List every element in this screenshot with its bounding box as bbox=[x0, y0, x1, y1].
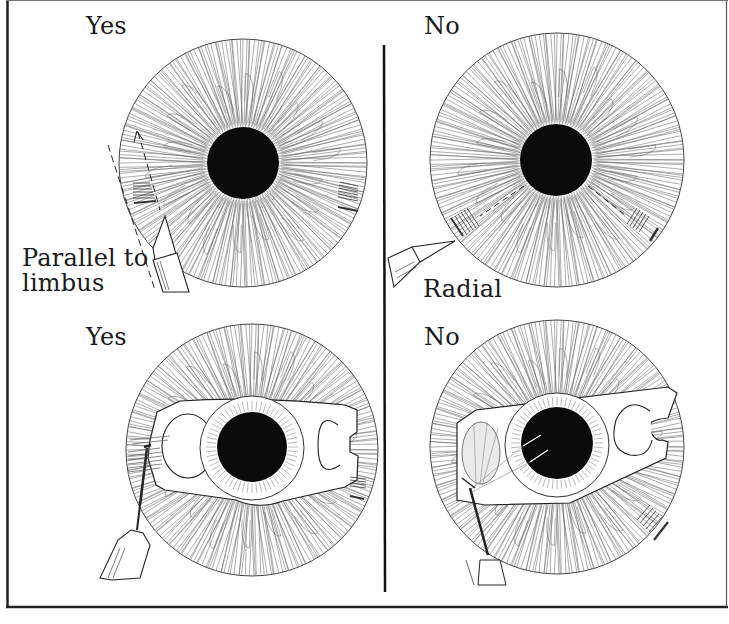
pupil bbox=[520, 124, 592, 196]
eye-top-right bbox=[388, 33, 684, 287]
verdict-label-bottom-right: No bbox=[424, 324, 460, 351]
verdict-label-bottom-left: Yes bbox=[86, 324, 127, 351]
caption-parallel-line1: Parallel to bbox=[22, 245, 148, 272]
pupil bbox=[207, 127, 279, 199]
caption-parallel-line2: limbus bbox=[22, 270, 104, 297]
panel-divider bbox=[384, 45, 385, 592]
verdict-label-top-right: No bbox=[424, 13, 460, 40]
pupil bbox=[521, 407, 593, 479]
eye-bottom-left bbox=[100, 324, 378, 580]
eye-incision-diagram: Yes No Yes No Parallel to limbus Radial bbox=[0, 0, 729, 624]
haptic-hole-right bbox=[318, 421, 340, 470]
eye-bottom-right bbox=[430, 320, 684, 585]
verdict-label-top-left: Yes bbox=[86, 13, 127, 40]
caption-radial: Radial bbox=[423, 276, 502, 303]
pupil bbox=[217, 412, 287, 482]
diagram-canvas bbox=[0, 0, 729, 624]
